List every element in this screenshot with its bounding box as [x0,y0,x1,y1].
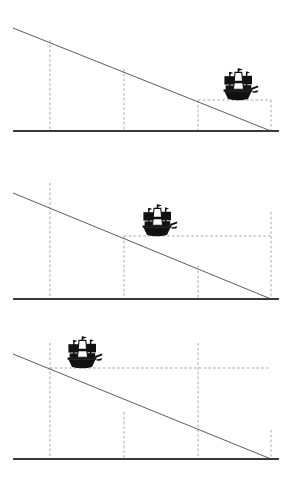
sight-line-panel-2 [13,193,271,299]
diagram-root [0,0,292,491]
sailing-ship-icon [224,68,259,100]
panel-ship-near [13,336,279,459]
sailing-ship-icon [68,336,103,368]
panel-ship-middle [13,183,279,299]
sailing-ship-icon [143,204,178,236]
perspective-diagram-svg [0,0,292,491]
panel-ship-far [13,28,279,131]
guide-lines-panel-2 [50,183,271,299]
sight-line-panel-3 [13,354,271,459]
